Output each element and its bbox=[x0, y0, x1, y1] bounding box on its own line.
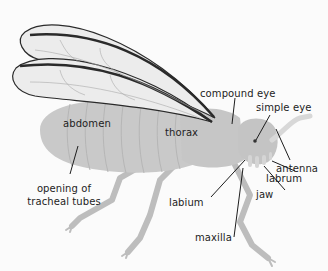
label-abdomen: abdomen bbox=[63, 118, 111, 129]
antenna-shape bbox=[272, 116, 310, 140]
label-thorax: thorax bbox=[165, 127, 198, 138]
thorax-shape bbox=[180, 109, 244, 168]
legs bbox=[66, 158, 275, 266]
label-tracheal-line-1: opening of bbox=[24, 183, 104, 194]
label-labium: labium bbox=[169, 197, 204, 208]
label-labrum: labrum bbox=[266, 173, 302, 184]
insect-illustration bbox=[0, 0, 328, 271]
label-jaw: jaw bbox=[256, 189, 273, 200]
label-compound-eye: compound eye bbox=[200, 88, 275, 99]
label-maxilla: maxilla bbox=[195, 232, 232, 243]
insect-anatomy-diagram: abdomen thorax compound eye simple eye a… bbox=[0, 0, 328, 271]
label-tracheal-line-2: tracheal tubes bbox=[24, 196, 104, 207]
label-simple-eye: simple eye bbox=[256, 102, 311, 113]
